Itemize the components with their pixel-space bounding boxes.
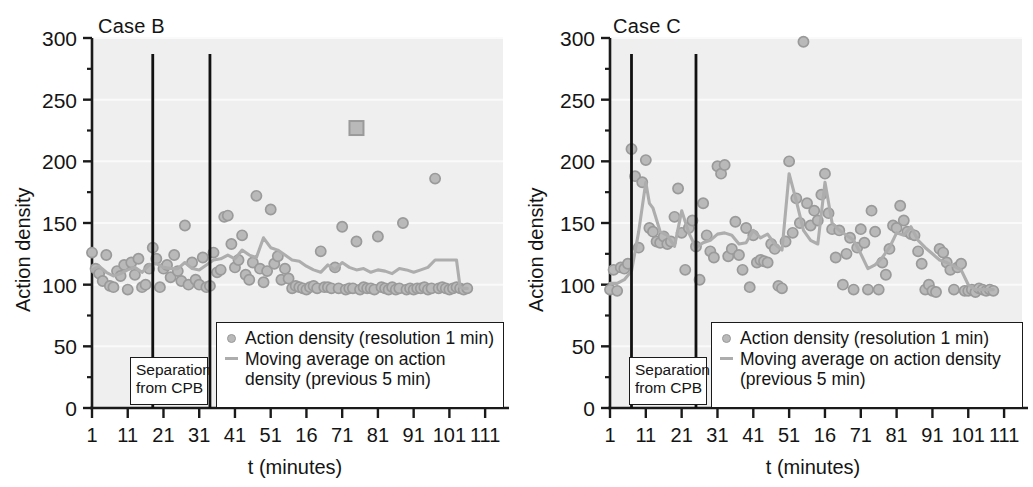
- data-point: [133, 254, 143, 264]
- data-point: [244, 275, 254, 285]
- data-point: [784, 156, 794, 166]
- legend-label-line-b-1: Moving average on action: [245, 349, 445, 369]
- y-tick-label: 0: [65, 397, 77, 420]
- legend-label-line-c-1: Moving average on action density: [740, 349, 1001, 369]
- x-tick-label: 1: [604, 424, 615, 446]
- data-point: [809, 206, 819, 216]
- panel-case-c: Case C Action density t (minutes) 050100…: [513, 0, 1029, 487]
- data-point: [863, 285, 873, 295]
- y-tick-label: 200: [560, 150, 595, 173]
- data-point: [895, 201, 905, 211]
- data-point: [931, 287, 941, 297]
- plot-canvas-case-b: 0501001502002503001112131415116718191101…: [0, 0, 516, 487]
- data-point: [155, 282, 165, 292]
- legend-label-line-b: Moving average on action density (previo…: [245, 349, 496, 390]
- data-point: [737, 265, 747, 275]
- data-point: [648, 227, 658, 237]
- legend-label-line-c-2: (previous 5 min): [740, 369, 865, 389]
- data-point: [258, 277, 268, 287]
- data-point: [430, 174, 440, 184]
- data-point: [101, 250, 111, 260]
- x-tick-label: 101: [433, 424, 466, 446]
- data-point: [777, 283, 787, 293]
- separation-line-1: Separation: [635, 361, 701, 379]
- legend-entry-line-b: Moving average on action density (previo…: [224, 349, 496, 390]
- x-tick-label: 51: [260, 424, 282, 446]
- data-point: [949, 285, 959, 295]
- y-tick-label: 100: [42, 274, 77, 297]
- x-tick-label: 91: [403, 424, 425, 446]
- data-point: [763, 257, 773, 267]
- x-tick-label: 31: [188, 424, 210, 446]
- x-tick-label: 11: [635, 424, 656, 446]
- data-point: [838, 280, 848, 290]
- data-point: [730, 217, 740, 227]
- data-point: [373, 231, 383, 241]
- x-tick-label: 11: [117, 424, 138, 446]
- x-tick-label: 81: [885, 424, 907, 446]
- x-tick-label: 1: [86, 424, 97, 446]
- legend-label-line-b-2: density (previous 5 min): [245, 369, 431, 389]
- data-point: [899, 215, 909, 225]
- y-tick-label: 50: [572, 335, 595, 358]
- x-tick-label: 81: [367, 424, 389, 446]
- data-point: [641, 155, 651, 165]
- separation-line-1: Separation: [136, 361, 202, 379]
- x-tick-label: 31: [706, 424, 728, 446]
- y-tick-label: 300: [42, 27, 77, 50]
- data-point: [226, 239, 236, 249]
- data-point: [223, 211, 233, 221]
- x-tick-label: 16: [814, 424, 836, 446]
- data-point: [938, 248, 948, 258]
- legend-label-scatter-b: Action density (resolution 1 min): [245, 328, 496, 349]
- data-point: [108, 282, 118, 292]
- line-marker-icon: [224, 349, 239, 370]
- data-point: [141, 280, 151, 290]
- x-tick-label: 91: [921, 424, 943, 446]
- data-point: [87, 248, 97, 258]
- data-point: [720, 160, 730, 170]
- x-tick-label: 111: [470, 424, 500, 446]
- data-point: [831, 252, 841, 262]
- y-tick-label: 150: [42, 212, 77, 235]
- y-tick-label: 100: [560, 274, 595, 297]
- x-tick-label: 16: [295, 424, 317, 446]
- data-point: [849, 285, 859, 295]
- separation-line-2: from CPB: [136, 379, 202, 397]
- x-tick-label: 71: [850, 424, 872, 446]
- legend-entry-line-c: Moving average on action density (previo…: [719, 349, 1015, 390]
- data-point: [798, 37, 808, 47]
- data-point: [881, 270, 891, 280]
- data-point: [180, 220, 190, 230]
- data-point: [841, 249, 851, 259]
- data-point: [316, 246, 326, 256]
- data-point: [169, 250, 179, 260]
- data-point: [856, 224, 866, 234]
- x-tick-label: 21: [671, 424, 693, 446]
- y-tick-label: 300: [560, 27, 595, 50]
- data-point: [866, 206, 876, 216]
- x-tick-label: 51: [778, 424, 800, 446]
- data-point: [709, 252, 719, 262]
- data-point: [820, 169, 830, 179]
- circle-marker-icon: [224, 328, 239, 349]
- data-point: [337, 222, 347, 232]
- data-point: [669, 212, 679, 222]
- x-tick-label: 101: [952, 424, 985, 446]
- data-point: [351, 236, 361, 246]
- data-point: [870, 227, 880, 237]
- data-point: [734, 250, 744, 260]
- y-tick-label: 50: [54, 335, 77, 358]
- y-tick-label: 150: [560, 212, 595, 235]
- data-point: [266, 204, 276, 214]
- y-tick-label: 200: [42, 150, 77, 173]
- x-tick-label: 41: [742, 424, 764, 446]
- data-point: [745, 282, 755, 292]
- data-point: [216, 265, 226, 275]
- data-point-square: [349, 121, 363, 135]
- data-point: [251, 191, 261, 201]
- line-marker-icon: [719, 349, 734, 370]
- legend-entry-scatter-c: Action density (resolution 1 min): [719, 328, 1015, 349]
- data-point: [788, 228, 798, 238]
- data-point: [612, 286, 622, 296]
